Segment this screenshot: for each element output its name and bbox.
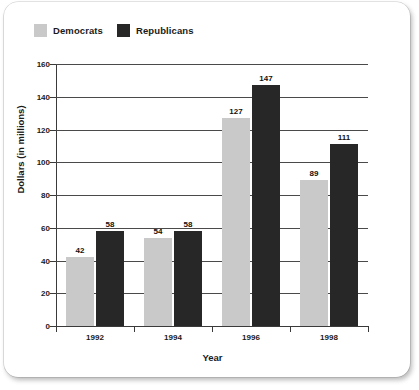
chart-card: Democrats Republicans Dollars (in millio… bbox=[4, 2, 410, 377]
x-axis-tick bbox=[212, 326, 213, 332]
y-axis-tick bbox=[50, 130, 56, 131]
legend-item-republicans: Republicans bbox=[117, 24, 194, 37]
x-axis-tick-label-1996: 1996 bbox=[242, 333, 260, 342]
x-axis-tick bbox=[290, 326, 291, 332]
y-axis-tick-label: 0 bbox=[12, 322, 50, 331]
y-axis-tick bbox=[50, 97, 56, 98]
bar-democrats-1998[interactable]: 89 bbox=[300, 180, 328, 326]
y-axis-tick bbox=[50, 64, 56, 65]
bar-value-label: 58 bbox=[184, 220, 193, 229]
bar-value-label: 42 bbox=[76, 246, 85, 255]
bar-group: 5458 bbox=[134, 64, 212, 326]
y-axis-tick-label: 100 bbox=[12, 158, 50, 167]
legend-item-democrats: Democrats bbox=[34, 24, 103, 37]
bar-republicans-1992[interactable]: 58 bbox=[96, 231, 124, 326]
y-axis-tick-label: 140 bbox=[12, 92, 50, 101]
y-axis-tick-label: 40 bbox=[12, 256, 50, 265]
bar-value-label: 147 bbox=[259, 74, 272, 83]
x-axis-tick-label-1998: 1998 bbox=[320, 333, 338, 342]
y-axis-tick bbox=[50, 195, 56, 196]
bar-group: 89111 bbox=[290, 64, 368, 326]
y-axis-tick bbox=[50, 293, 56, 294]
bar-republicans-1994[interactable]: 58 bbox=[174, 231, 202, 326]
y-axis-tick-label: 120 bbox=[12, 125, 50, 134]
y-axis-tick-label: 60 bbox=[12, 223, 50, 232]
bar-value-label: 111 bbox=[338, 133, 350, 142]
bar-value-label: 54 bbox=[154, 227, 163, 236]
y-axis-tick bbox=[50, 228, 56, 229]
bar-value-label: 58 bbox=[106, 220, 115, 229]
legend-swatch-republicans bbox=[117, 24, 130, 37]
y-axis-tick-label: 160 bbox=[12, 60, 50, 69]
x-axis-tick bbox=[368, 326, 369, 332]
plot-area: 4258545812714789111 bbox=[56, 64, 368, 326]
bar-democrats-1994[interactable]: 54 bbox=[144, 238, 172, 326]
bar-value-label: 127 bbox=[229, 107, 242, 116]
bar-democrats-1992[interactable]: 42 bbox=[66, 257, 94, 326]
x-axis-tick-label-1994: 1994 bbox=[164, 333, 182, 342]
y-axis-tick-label: 20 bbox=[12, 289, 50, 298]
bar-group: 4258 bbox=[56, 64, 134, 326]
legend-label-democrats: Democrats bbox=[53, 25, 103, 36]
x-axis-title: Year bbox=[56, 352, 369, 363]
x-axis-tick bbox=[56, 326, 57, 332]
x-axis-tick bbox=[134, 326, 135, 332]
y-axis-tick bbox=[50, 162, 56, 163]
y-axis-tick bbox=[50, 261, 56, 262]
legend-swatch-democrats bbox=[34, 24, 47, 37]
y-axis-tick-labels: 020406080100120140160 bbox=[12, 64, 50, 326]
bar-group: 127147 bbox=[212, 64, 290, 326]
legend-label-republicans: Republicans bbox=[136, 25, 194, 36]
chart-legend: Democrats Republicans bbox=[34, 24, 194, 37]
y-axis-tick-label: 80 bbox=[12, 191, 50, 200]
x-axis-tick-label-1992: 1992 bbox=[86, 333, 104, 342]
bar-value-label: 89 bbox=[310, 169, 319, 178]
bar-republicans-1996[interactable]: 147 bbox=[252, 85, 280, 326]
bar-democrats-1996[interactable]: 127 bbox=[222, 118, 250, 326]
bar-republicans-1998[interactable]: 111 bbox=[330, 144, 358, 326]
